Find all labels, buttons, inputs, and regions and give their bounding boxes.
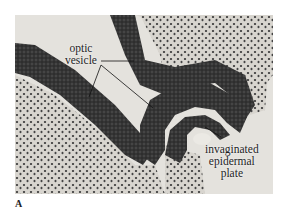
label-line: vesicle [65,54,97,66]
label-line: epidermal [205,155,259,167]
panel-letter: A [15,198,22,209]
label-line: plate [205,167,259,179]
label-line: optic [65,42,97,54]
invaginated-epidermal-plate-label: invaginated epidermal plate [205,143,259,179]
label-line: invaginated [205,143,259,155]
micrograph: optic vesicle invaginated epidermal plat… [15,15,273,194]
optic-vesicle-label: optic vesicle [65,42,97,66]
